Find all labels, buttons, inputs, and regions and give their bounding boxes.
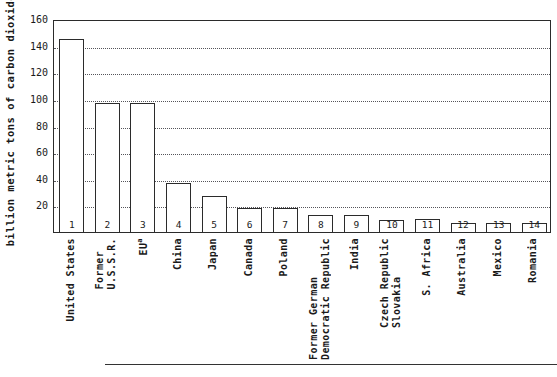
category-label-text: China [172,238,184,270]
bar: 5 [202,196,227,232]
y-tick-label-40: 40 [36,175,48,185]
category-label-text: Romania [527,238,539,283]
bar: 11 [415,219,440,232]
y-tick-label-20: 20 [36,201,48,211]
bar-number-label: 10 [386,220,397,233]
category-label-text: Former U.S.S.R. [94,238,118,289]
footer-rule [105,364,557,365]
bar: 8 [308,215,333,232]
bar: 10 [379,220,404,232]
bar: 1 [59,39,84,232]
category-label-text: Mexico [492,238,504,277]
category-label-text: United States [65,238,77,321]
category-label-text: India [349,238,361,270]
bar-number-label: 14 [528,220,539,233]
bar-number-label: 4 [176,220,182,233]
bar: 4 [166,183,191,232]
category-label-text: Japan [207,238,219,270]
category-label-footnote-marker: a [136,238,144,243]
x-axis-category-labels: United StatesFormer U.S.S.R.EUaChinaJapa… [53,234,551,364]
y-tick-label-120: 120 [30,68,48,78]
bar-number-label: 13 [493,220,504,233]
bar: 13 [486,223,511,232]
bar-number-label: 12 [457,220,468,233]
y-tick-label-100: 100 [30,95,48,105]
category-label-text: Poland [278,238,290,277]
bar: 12 [451,223,476,232]
bar: 6 [237,208,262,232]
y-axis-tick-labels: 20406080100120140160 [20,0,51,240]
bar-number-label: 7 [282,220,288,233]
category-label-text: Czech Republic Slovakia [379,238,403,328]
y-axis-title: billion metric tons of carbon dioxide [0,0,20,240]
bar-number-label: 9 [353,220,359,233]
y-tick-label-160: 160 [30,15,48,25]
bar: 2 [95,103,120,232]
y-tick-label-60: 60 [36,148,48,158]
bar: 3 [130,103,155,232]
y-axis-title-text: billion metric tons of carbon dioxide [4,0,16,246]
bar-number-label: 11 [422,220,433,233]
bar-number-label: 5 [211,220,217,233]
plot-area: 1234567891011121314 [53,20,551,233]
y-tick-label-80: 80 [36,122,48,132]
bar-number-label: 2 [104,220,110,233]
bar-number-label: 6 [247,220,253,233]
category-label-text: EUa [134,238,150,255]
category-label-text: Australia [456,238,468,296]
bar-number-label: 8 [318,220,324,233]
y-tick-label-140: 140 [30,42,48,52]
bar-number-label: 3 [140,220,146,233]
category-label-text: Canada [243,238,255,277]
bar-number-label: 1 [69,220,75,233]
category-label-text: S. Africa [421,238,433,296]
bar: 7 [273,208,298,232]
bar: 9 [344,215,369,232]
bar: 14 [522,223,547,232]
category-label-text: Former German Democratic Republic [308,238,332,360]
bars-container: 1234567891011121314 [54,21,550,232]
